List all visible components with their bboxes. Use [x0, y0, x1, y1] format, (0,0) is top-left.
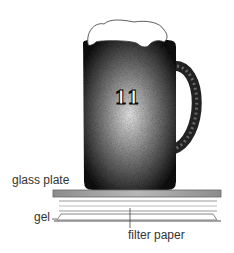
glass-plate: [53, 190, 221, 197]
beer-mug: 11: [83, 20, 176, 190]
mug-number: 11: [114, 87, 139, 108]
filter-paper-label: filter paper: [128, 229, 185, 241]
glass-plate-label: glass plate: [12, 174, 69, 186]
gel: [57, 214, 217, 220]
gel-label: gel: [34, 211, 50, 223]
filter-paper-layers: [59, 201, 217, 211]
